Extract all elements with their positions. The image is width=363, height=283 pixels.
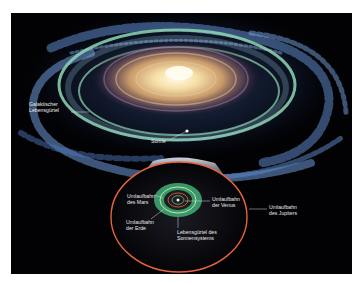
label-jupiter-orbit: Umlaufbahn des Jupiters — [269, 204, 297, 216]
label-solar-habitable-zone: Lebensgürtel des Sonnensystems — [177, 229, 217, 241]
label-venus-orbit: Umlaufbahn der Venus — [212, 196, 240, 208]
label-galactic-habitable-zone: Galaktischer Lebensgürtel — [29, 101, 59, 113]
galaxy-diagram: Galaktischer Lebensgürtel Sonne Umlaufba… — [11, 13, 352, 274]
label-earth-orbit: Umlaufbahn der Erde — [126, 219, 154, 231]
label-sun: Sonne — [151, 138, 166, 144]
jupiter-orbit — [111, 162, 247, 272]
label-mars-orbit: Umlaufbahn des Mars — [127, 193, 155, 205]
sun-center — [177, 199, 180, 202]
